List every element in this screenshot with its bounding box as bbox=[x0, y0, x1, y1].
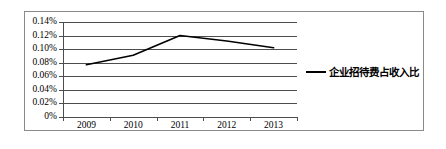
y-axis-tick-label: 0.12% bbox=[32, 31, 57, 41]
x-axis-tick-label: 2009 bbox=[63, 121, 109, 131]
chart-container: 0.14%0.12%0.10%0.08%0.06%0.04%0.02%0% 20… bbox=[0, 0, 446, 149]
y-axis-tick-label: 0% bbox=[44, 112, 57, 122]
y-axis-tick-label: 0.06% bbox=[32, 71, 57, 81]
x-axis-tick-label: 2012 bbox=[204, 121, 250, 131]
y-axis-tick-label: 0.14% bbox=[32, 17, 57, 27]
y-axis-tick-label: 0.10% bbox=[32, 44, 57, 54]
y-axis-labels: 0.14%0.12%0.10%0.08%0.06%0.04%0.02%0% bbox=[0, 0, 57, 149]
series-line-chart bbox=[63, 22, 297, 117]
legend-label: 企业招待费占收入比 bbox=[329, 67, 419, 78]
legend-line-swatch-icon bbox=[306, 71, 326, 73]
y-axis-tick-label: 0.08% bbox=[32, 58, 57, 68]
x-axis-tick-label: 2011 bbox=[157, 121, 203, 131]
y-axis-tick bbox=[59, 117, 63, 118]
chart-legend: 企业招待费占收入比 bbox=[306, 67, 419, 78]
x-axis-tick-label: 2013 bbox=[251, 121, 297, 131]
x-axis-tick bbox=[297, 117, 298, 121]
x-axis-tick-label: 2010 bbox=[110, 121, 156, 131]
y-axis-tick-label: 0.02% bbox=[32, 98, 57, 108]
x-axis-line bbox=[63, 117, 297, 118]
series-polyline bbox=[86, 36, 273, 65]
y-axis-tick-label: 0.04% bbox=[32, 85, 57, 95]
